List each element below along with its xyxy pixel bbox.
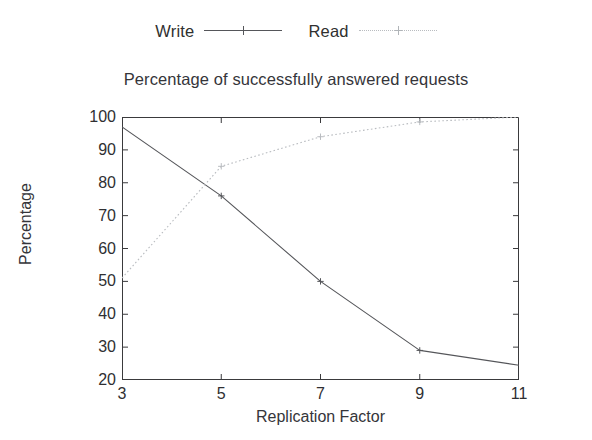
- legend-marker-cross-icon: [395, 26, 402, 35]
- legend-sample-write-line: [204, 25, 282, 37]
- y-tick-label-100: 100: [72, 109, 116, 125]
- y-tick-label-80: 80: [72, 175, 116, 191]
- x-axis-label: Replication Factor: [122, 408, 519, 426]
- marker-write-9: [417, 347, 423, 353]
- marker-read-9: [417, 119, 423, 125]
- x-tick-label-9: 9: [400, 386, 440, 402]
- legend-entry-write: Write: [155, 22, 282, 41]
- x-tick-label-3: 3: [102, 386, 142, 402]
- legend-label-write: Write: [155, 22, 194, 41]
- chart-legend: Write Read: [0, 16, 592, 46]
- x-tick-label-11: 11: [499, 386, 539, 402]
- y-tick-label-70: 70: [72, 208, 116, 224]
- plot-canvas: [122, 117, 519, 380]
- y-tick-label-90: 90: [72, 142, 116, 158]
- legend-marker-plus-icon: [240, 26, 247, 35]
- y-tick-label-60: 60: [72, 241, 116, 257]
- legend-sample-read-line: [359, 25, 437, 37]
- y-tick-label-50: 50: [72, 273, 116, 289]
- marker-read-5: [218, 163, 224, 169]
- legend-entry-read: Read: [308, 22, 436, 41]
- legend-label-read: Read: [308, 22, 348, 41]
- y-axis-tick-labels: 1009080706050403020: [66, 117, 116, 380]
- chart-title: Percentage of successfully answered requ…: [0, 70, 592, 89]
- x-tick-label-7: 7: [301, 386, 341, 402]
- chart-figure: Write Read Percentage of successfully an…: [0, 0, 592, 440]
- x-tick-label-5: 5: [201, 386, 241, 402]
- marker-read-7: [317, 134, 323, 140]
- plot-area: [122, 117, 519, 380]
- series-line-write: [122, 127, 519, 365]
- x-axis-tick-labels: 357911: [122, 386, 519, 410]
- y-axis-label: Percentage: [17, 154, 35, 294]
- y-tick-label-40: 40: [72, 306, 116, 322]
- series-line-read: [122, 117, 519, 278]
- y-tick-label-30: 30: [72, 339, 116, 355]
